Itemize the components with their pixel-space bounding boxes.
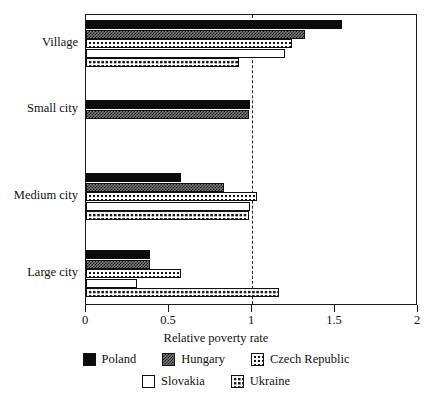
x-tick-0 xyxy=(85,305,86,312)
bar-ukraine-medium-city[interactable] xyxy=(86,211,249,220)
legend-label-slovakia: Slovakia xyxy=(161,374,205,389)
bar-poland-village[interactable] xyxy=(86,20,342,29)
legend-swatch-hungary xyxy=(162,353,175,366)
chart-legend: PolandHungaryCzech RepublicSlovakiaUkrai… xyxy=(0,352,432,396)
x-tick-label-3: 1.5 xyxy=(326,313,342,328)
bar-ukraine-large-city[interactable] xyxy=(86,288,279,297)
bar-poland-medium-city[interactable] xyxy=(86,173,181,182)
bar-poland-large-city[interactable] xyxy=(86,250,150,259)
legend-label-poland: Poland xyxy=(102,352,137,367)
x-tick-1 xyxy=(168,305,169,312)
legend-item-hungary[interactable]: Hungary xyxy=(162,352,225,367)
x-axis xyxy=(85,305,417,313)
bar-hungary-medium-city[interactable] xyxy=(86,183,224,192)
bar-czech-republic-medium-city[interactable] xyxy=(86,192,257,201)
legend-item-poland[interactable]: Poland xyxy=(83,352,137,367)
caption-fragment xyxy=(0,0,432,4)
bar-hungary-small-city[interactable] xyxy=(86,110,249,119)
y-label-medium-city: Medium city xyxy=(0,189,78,202)
x-tick-3 xyxy=(334,305,335,312)
bar-slovakia-village[interactable] xyxy=(86,49,285,58)
plot-area xyxy=(85,14,417,305)
legend-swatch-slovakia xyxy=(142,375,155,388)
bar-hungary-village[interactable] xyxy=(86,30,305,39)
y-label-village: Village xyxy=(0,36,78,49)
y-label-large-city: Large city xyxy=(0,266,78,279)
x-axis-tick-labels: 00.511.52 xyxy=(0,313,432,331)
legend-label-hungary: Hungary xyxy=(181,352,225,367)
x-axis-title: Relative poverty rate xyxy=(0,331,432,346)
x-tick-label-1: 0.5 xyxy=(160,313,176,328)
legend-row-1: SlovakiaUkraine xyxy=(0,374,432,389)
x-tick-4 xyxy=(417,305,418,312)
legend-swatch-ukraine xyxy=(231,375,244,388)
bar-czech-republic-large-city[interactable] xyxy=(86,269,181,278)
x-tick-label-0: 0 xyxy=(82,313,88,328)
legend-item-ukraine[interactable]: Ukraine xyxy=(231,374,290,389)
y-label-small-city: Small city xyxy=(0,102,78,115)
legend-swatch-poland xyxy=(83,353,96,366)
x-tick-label-2: 1 xyxy=(248,313,254,328)
legend-swatch-czech-republic xyxy=(251,353,264,366)
legend-row-0: PolandHungaryCzech Republic xyxy=(0,352,432,367)
x-tick-label-4: 2 xyxy=(414,313,420,328)
bar-poland-small-city[interactable] xyxy=(86,100,250,109)
bar-slovakia-medium-city[interactable] xyxy=(86,202,250,211)
bar-ukraine-village[interactable] xyxy=(86,58,239,67)
legend-item-czech-republic[interactable]: Czech Republic xyxy=(251,352,350,367)
bar-slovakia-large-city[interactable] xyxy=(86,279,137,288)
bar-czech-republic-village[interactable] xyxy=(86,39,292,48)
legend-label-ukraine: Ukraine xyxy=(250,374,290,389)
legend-label-czech-republic: Czech Republic xyxy=(270,352,350,367)
bar-hungary-large-city[interactable] xyxy=(86,260,150,269)
legend-item-slovakia[interactable]: Slovakia xyxy=(142,374,205,389)
x-tick-2 xyxy=(251,305,252,312)
reference-line-1 xyxy=(252,15,253,304)
